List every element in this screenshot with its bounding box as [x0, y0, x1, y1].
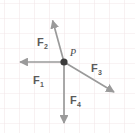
grid-lines: [0, 0, 135, 133]
vector-f1-subscript: 1: [40, 81, 44, 88]
force-vector-diagram: P F 1 F 2 F 3 F 4: [0, 0, 135, 133]
point-p-label: P: [69, 47, 76, 58]
diagram-canvas: P F 1 F 2 F 3 F 4: [0, 0, 135, 133]
vector-f1-label: F: [33, 74, 40, 86]
vector-f2-label: F: [37, 36, 44, 48]
vector-f3-label: F: [91, 62, 98, 74]
vector-f2-subscript: 2: [44, 43, 48, 50]
point-p-marker: [60, 58, 67, 65]
vector-f4-label: F: [70, 94, 77, 106]
vector-f3-subscript: 3: [98, 69, 102, 76]
vector-f4-subscript: 4: [77, 101, 81, 108]
